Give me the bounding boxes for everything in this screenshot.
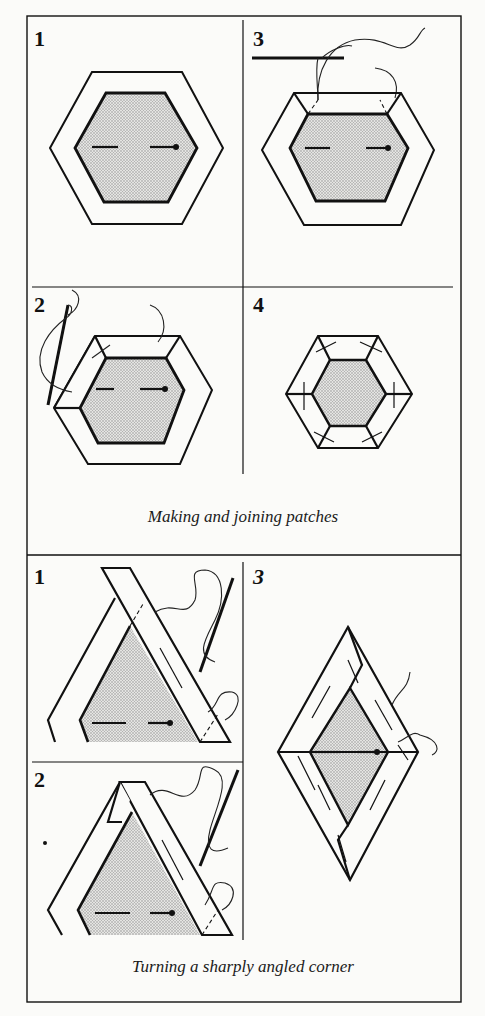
panel-top-3: 3: [252, 26, 434, 225]
panel-top-1: 1: [34, 26, 223, 224]
panel-label: 2: [34, 767, 45, 792]
needle-icon: [200, 578, 233, 672]
panel-label: 4: [253, 292, 264, 317]
pin-head-icon: [385, 145, 391, 151]
pin-head-icon: [374, 749, 380, 755]
pin-head-icon: [162, 386, 168, 392]
speck: [43, 841, 47, 845]
pin-head-icon: [173, 144, 179, 150]
panel-label: 3: [253, 26, 264, 51]
caption-making-joining: Making and joining patches: [147, 507, 339, 526]
panel-label: 1: [34, 564, 45, 589]
panel-bottom-2: 2: [34, 767, 238, 935]
panel-label: 3: [252, 564, 264, 589]
patchwork-diagram: 1 3 2: [0, 0, 485, 1016]
pin-head-icon: [169, 910, 175, 916]
caption-sharp-corner: Turning a sharply angled corner: [132, 957, 354, 976]
panel-top-2: 2: [34, 290, 212, 464]
panel-top-4: 4: [253, 292, 412, 448]
needle-icon: [200, 770, 238, 866]
panel-label: 2: [34, 292, 45, 317]
panel-bottom-1: 1: [34, 564, 238, 742]
panel-bottom-3: 3: [252, 564, 437, 880]
panel-label: 1: [34, 26, 45, 51]
pin-head-icon: [167, 720, 173, 726]
